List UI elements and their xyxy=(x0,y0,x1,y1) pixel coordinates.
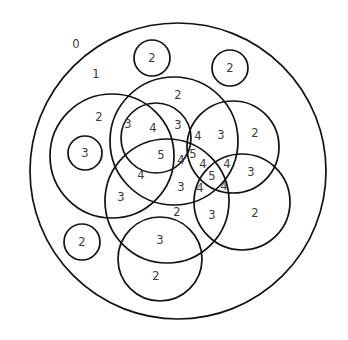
region-label: 3 xyxy=(208,208,215,222)
region-label: 4 xyxy=(199,157,206,171)
region-label: 4 xyxy=(220,179,227,193)
region-label: 2 xyxy=(251,206,258,220)
region-label: 2 xyxy=(173,205,180,219)
region-label: 4 xyxy=(194,129,201,143)
region-label: 3 xyxy=(177,180,184,194)
region-label: 5 xyxy=(189,147,196,161)
region-label: 3 xyxy=(156,233,163,247)
region-label: 2 xyxy=(226,61,233,75)
region-label: 5 xyxy=(157,148,164,162)
region-label: 5 xyxy=(208,169,215,183)
region-label: 3 xyxy=(247,165,254,179)
region-label: 4 xyxy=(137,168,144,182)
region-label: 3 xyxy=(174,118,181,132)
region-label: 3 xyxy=(117,190,124,204)
region-label: 2 xyxy=(152,269,159,283)
region-label: 4 xyxy=(177,153,184,167)
circle-outlines xyxy=(30,23,326,319)
venn-diagram: 0122223434323545444533344232232 xyxy=(0,0,348,340)
region-label: 2 xyxy=(174,88,181,102)
region-label: 2 xyxy=(78,235,85,249)
region-label: 2 xyxy=(148,51,155,65)
region-label: 0 xyxy=(72,37,79,51)
region-label: 2 xyxy=(251,126,258,140)
region-label: 2 xyxy=(95,110,102,124)
region-label: 3 xyxy=(124,117,131,131)
region-label: 3 xyxy=(81,146,88,160)
region-label: 4 xyxy=(223,157,230,171)
region-label: 1 xyxy=(92,67,99,81)
region-label: 3 xyxy=(217,128,224,142)
region-label: 4 xyxy=(196,181,203,195)
circle-outer xyxy=(30,23,326,319)
region-label: 4 xyxy=(149,121,156,135)
